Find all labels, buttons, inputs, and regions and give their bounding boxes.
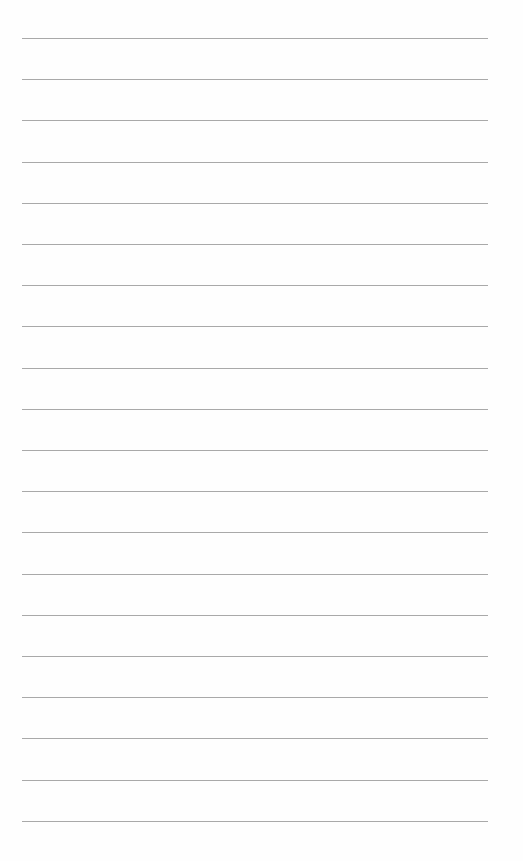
ruled-line: [22, 656, 488, 657]
ruled-line: [22, 532, 488, 533]
ruled-line: [22, 120, 488, 121]
ruled-line: [22, 491, 488, 492]
ruled-line: [22, 821, 488, 822]
ruled-line: [22, 697, 488, 698]
ruled-line: [22, 79, 488, 80]
ruled-line: [22, 780, 488, 781]
ruled-line: [22, 203, 488, 204]
ruled-line: [22, 285, 488, 286]
ruled-line: [22, 450, 488, 451]
ruled-line: [22, 409, 488, 410]
ruled-line: [22, 738, 488, 739]
ruled-line: [22, 38, 488, 39]
lined-paper-page: [0, 0, 523, 861]
ruled-line: [22, 615, 488, 616]
ruled-line: [22, 162, 488, 163]
ruled-line: [22, 368, 488, 369]
ruled-line: [22, 326, 488, 327]
ruled-line: [22, 574, 488, 575]
ruled-line: [22, 244, 488, 245]
